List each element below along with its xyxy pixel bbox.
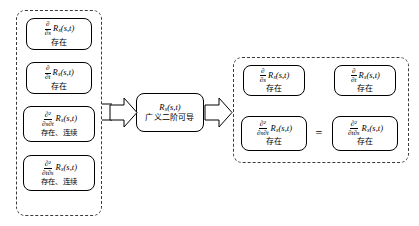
fraction: ∂² ∂t∂s — [347, 120, 361, 137]
function-expression: Rx(s,t) — [56, 163, 77, 173]
function-name: R — [358, 70, 363, 80]
formula-partial-t-s: ∂² ∂t∂s Rx(s,t) — [347, 120, 383, 137]
fraction-denominator: ∂t — [44, 74, 51, 82]
node-partial-s: ∂ ∂s Rx(s,t) 存在 — [26, 18, 92, 50]
formula-partial-s: ∂ ∂s Rx(s,t) — [259, 68, 290, 84]
fraction-denominator: ∂s — [259, 76, 267, 84]
fraction: ∂ ∂t — [350, 68, 357, 84]
node-result-partial-s: ∂ ∂s Rx(s,t) 存在 — [243, 65, 305, 96]
function-expression: Rx(s,t) — [358, 71, 379, 81]
node-partial-s-t: ∂² ∂s∂t Rx(s,t) 存在、连续 — [23, 106, 95, 142]
block-arrow-right-icon-right — [205, 98, 232, 127]
node-result-partial-t-s: ∂² ∂t∂s Rx(s,t) 存在 — [332, 116, 398, 151]
formula-partial-s: ∂ ∂s Rx(s,t) — [44, 21, 75, 37]
node-result-partial-t: ∂ ∂t Rx(s,t) 存在 — [334, 65, 396, 96]
fraction-numerator: ∂² — [350, 120, 358, 129]
status-label: 存在 — [266, 138, 282, 146]
status-label: 存在 — [357, 138, 373, 146]
function-args: (s,t) — [279, 123, 292, 133]
equals-sign: = — [310, 125, 328, 141]
block-arrow-right-icon-left — [110, 98, 137, 127]
fraction-denominator: ∂s — [44, 30, 52, 38]
fraction-denominator: ∂t — [350, 76, 357, 84]
function-expression: Rx(s,t) — [159, 103, 180, 113]
function-args: (s,t) — [64, 162, 77, 172]
fraction-denominator: ∂s∂t — [256, 129, 270, 137]
node-partial-t: ∂ ∂t Rx(s,t) 存在 — [26, 62, 92, 94]
fraction-numerator: ∂ — [260, 68, 265, 77]
function-args: (s,t) — [370, 123, 383, 133]
function-name: R — [52, 67, 57, 77]
fraction: ∂ ∂s — [44, 21, 52, 37]
fraction-denominator: ∂t∂s — [41, 169, 55, 177]
function-name: R — [56, 113, 61, 123]
fraction-denominator: ∂t∂s — [347, 129, 361, 137]
function-args: (s,t) — [167, 102, 180, 112]
formula-partial-t: ∂ ∂t Rx(s,t) — [44, 65, 74, 81]
formula-partial-s-t: ∂² ∂s∂t Rx(s,t) — [256, 120, 292, 137]
node-generalized-second-order: Rx(s,t) 广义二阶可导 — [136, 93, 204, 132]
status-label: 存在 — [51, 39, 67, 47]
diagram-canvas: ∂ ∂s Rx(s,t) 存在 ∂ ∂t Rx(s,t) 存在 ∂² ∂s∂t … — [0, 0, 419, 226]
status-label: 存在、连续 — [41, 178, 77, 186]
function-args: (s,t) — [366, 70, 379, 80]
fraction: ∂² ∂s∂t — [256, 120, 270, 137]
function-expression: Rx(s,t) — [362, 124, 383, 134]
function-args: (s,t) — [60, 67, 73, 77]
status-label: 存在、连续 — [41, 129, 77, 137]
formula-partial-t: ∂ ∂t Rx(s,t) — [350, 68, 380, 84]
function-args: (s,t) — [61, 23, 74, 33]
status-label: 广义二阶可导 — [145, 114, 194, 122]
fraction-numerator: ∂² — [44, 160, 52, 169]
fraction-denominator: ∂s∂t — [41, 120, 55, 128]
function-args: (s,t) — [64, 113, 77, 123]
function-expression: Rx(s,t) — [53, 24, 74, 34]
status-label: 存在 — [51, 83, 67, 91]
function-name: R — [56, 162, 61, 172]
function-args: (s,t) — [276, 70, 289, 80]
fraction-numerator: ∂² — [259, 120, 267, 129]
function-expression: Rx(s,t) — [268, 71, 289, 81]
fraction: ∂² ∂t∂s — [41, 160, 55, 177]
function-expression: Rx(s,t) — [56, 114, 77, 124]
formula-partial-s-t: ∂² ∂s∂t Rx(s,t) — [41, 111, 77, 128]
status-label: 存在 — [266, 85, 282, 93]
fraction: ∂ ∂t — [44, 65, 51, 81]
fraction: ∂² ∂s∂t — [41, 111, 55, 128]
function-expression: Rx(s,t) — [271, 124, 292, 134]
function-expression: Rx(s,t) — [52, 68, 73, 78]
fraction-numerator: ∂ — [351, 68, 356, 77]
function-name: R — [271, 123, 276, 133]
node-result-partial-s-t: ∂² ∂s∂t Rx(s,t) 存在 — [241, 116, 307, 151]
fraction: ∂ ∂s — [259, 68, 267, 84]
function-name: R — [362, 123, 367, 133]
node-partial-t-s: ∂² ∂t∂s Rx(s,t) 存在、连续 — [23, 155, 95, 191]
status-label: 存在 — [357, 85, 373, 93]
formula-partial-t-s: ∂² ∂t∂s Rx(s,t) — [41, 160, 77, 177]
fraction-numerator: ∂² — [44, 111, 52, 120]
